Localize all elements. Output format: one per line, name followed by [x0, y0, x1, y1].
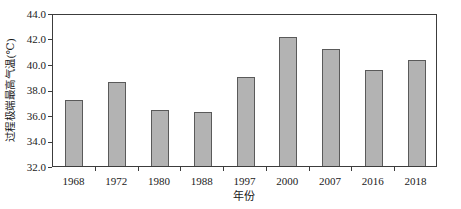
x-tick-label: 2016 — [352, 176, 394, 187]
x-tick-label: 2000 — [266, 176, 308, 187]
y-tick-label: 38.0 — [6, 85, 46, 96]
x-tick-label: 2007 — [309, 176, 351, 187]
y-tick-label: 40.0 — [6, 60, 46, 71]
bar-2016 — [365, 70, 383, 166]
y-tick-mark — [48, 39, 52, 40]
bar-1972 — [108, 82, 126, 166]
y-tick-label: 32.0 — [6, 162, 46, 173]
plot-area — [52, 14, 437, 167]
y-tick-label: 34.0 — [6, 136, 46, 147]
x-tick-label: 1980 — [138, 176, 180, 187]
y-tick-mark — [48, 167, 52, 168]
bar-2007 — [322, 49, 340, 166]
x-axis-title: 年份 — [233, 191, 255, 202]
x-tick-mark — [351, 167, 352, 171]
bar-1988 — [194, 112, 212, 166]
bar-1997 — [237, 77, 255, 166]
y-tick-mark — [48, 65, 52, 66]
x-tick-mark — [394, 167, 395, 171]
x-tick-label: 2018 — [395, 176, 437, 187]
x-tick-label: 1997 — [224, 176, 266, 187]
x-tick-label: 1988 — [181, 176, 223, 187]
y-tick-label: 42.0 — [6, 34, 46, 45]
x-tick-mark — [309, 167, 310, 171]
bar-1968 — [65, 100, 83, 166]
x-tick-mark — [223, 167, 224, 171]
y-tick-label: 36.0 — [6, 111, 46, 122]
x-tick-mark — [266, 167, 267, 171]
x-tick-mark — [138, 167, 139, 171]
x-tick-label: 1972 — [95, 176, 137, 187]
bar-1980 — [151, 110, 169, 166]
bar-2018 — [408, 60, 426, 166]
bar-chart: 过程极端最高气温(℃) 年份 32.034.036.038.040.042.04… — [0, 0, 461, 209]
y-tick-mark — [48, 91, 52, 92]
bar-2000 — [279, 37, 297, 166]
x-tick-mark — [180, 167, 181, 171]
y-tick-mark — [48, 14, 52, 15]
x-tick-label: 1968 — [52, 176, 94, 187]
y-tick-mark — [48, 116, 52, 117]
x-tick-mark — [95, 167, 96, 171]
y-tick-mark — [48, 142, 52, 143]
y-tick-label: 44.0 — [6, 9, 46, 20]
